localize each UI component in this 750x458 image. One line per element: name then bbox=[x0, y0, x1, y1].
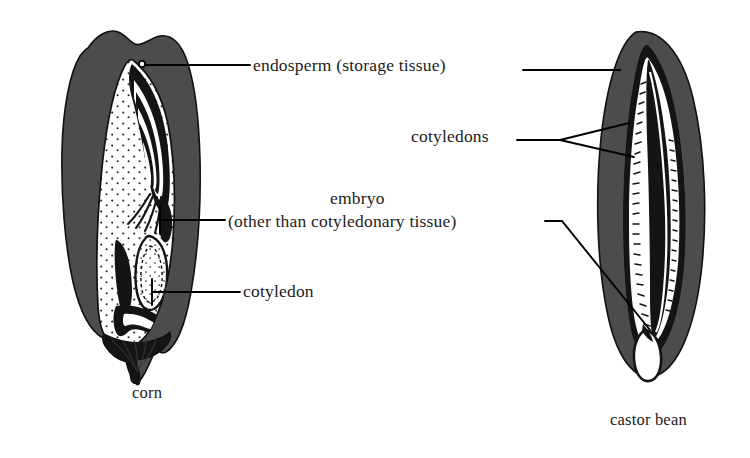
castor-bean-illustration bbox=[598, 32, 705, 382]
caption-corn: corn bbox=[132, 383, 162, 403]
label-cotyledons: cotyledons bbox=[411, 126, 489, 147]
label-embryo-qualifier: (other than cotyledonary tissue) bbox=[228, 211, 456, 232]
leader-endosperm-corn-dot bbox=[139, 61, 145, 67]
corn-kernel-illustration bbox=[62, 31, 200, 385]
label-embryo: embryo bbox=[330, 188, 385, 209]
label-cotyledon: cotyledon bbox=[243, 281, 314, 302]
caption-castor-bean: castor bean bbox=[610, 410, 687, 430]
leader-lines bbox=[139, 61, 650, 330]
diagram-canvas: endosperm (storage tissue) cotyledons em… bbox=[0, 0, 750, 458]
label-endosperm: endosperm (storage tissue) bbox=[253, 55, 446, 76]
